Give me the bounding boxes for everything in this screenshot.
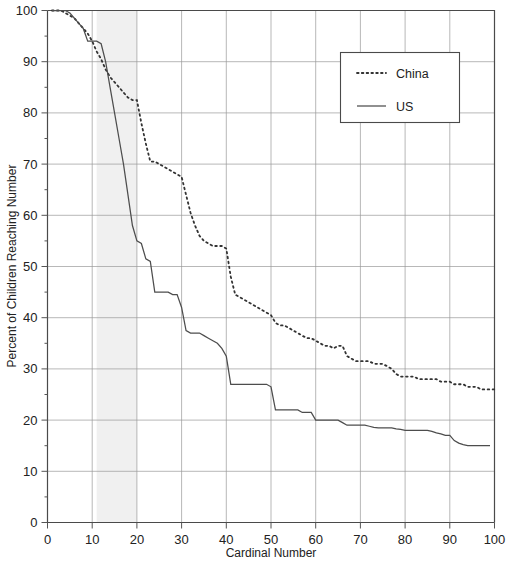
y-tick-label: 20 <box>23 413 37 428</box>
x-tick-label: 30 <box>174 532 188 547</box>
chart-container: 0102030405060708090100 01020304050607080… <box>0 0 508 571</box>
y-tick-label: 100 <box>16 3 38 18</box>
y-tick-label: 10 <box>23 464 37 479</box>
y-tick-label: 30 <box>23 361 37 376</box>
x-tick-label: 40 <box>219 532 233 547</box>
y-tick-label: 40 <box>23 310 37 325</box>
y-tick-label: 90 <box>23 54 37 69</box>
x-tick-label: 10 <box>85 532 99 547</box>
x-tick-label: 80 <box>398 532 412 547</box>
percent-children-reaching-number-chart: 0102030405060708090100 01020304050607080… <box>0 0 508 571</box>
y-tick-label: 0 <box>30 515 37 530</box>
y-tick-label: 80 <box>23 105 37 120</box>
x-tick-label: 70 <box>353 532 367 547</box>
y-tick-label: 50 <box>23 259 37 274</box>
y-axis-title: Percent of Children Reaching Number <box>5 165 19 368</box>
x-tick-label: 60 <box>308 532 322 547</box>
legend-label-us: US <box>396 100 413 114</box>
x-axis-title: Cardinal Number <box>226 546 317 560</box>
y-tick-label: 70 <box>23 157 37 172</box>
x-tick-label: 20 <box>130 532 144 547</box>
x-tick-label: 90 <box>443 532 457 547</box>
x-tick-label: 100 <box>484 532 506 547</box>
x-tick-label: 50 <box>264 532 278 547</box>
x-tick-label: 0 <box>44 532 51 547</box>
legend-label-china: China <box>396 67 429 81</box>
y-tick-label: 60 <box>23 208 37 223</box>
legend: China US <box>341 53 460 123</box>
